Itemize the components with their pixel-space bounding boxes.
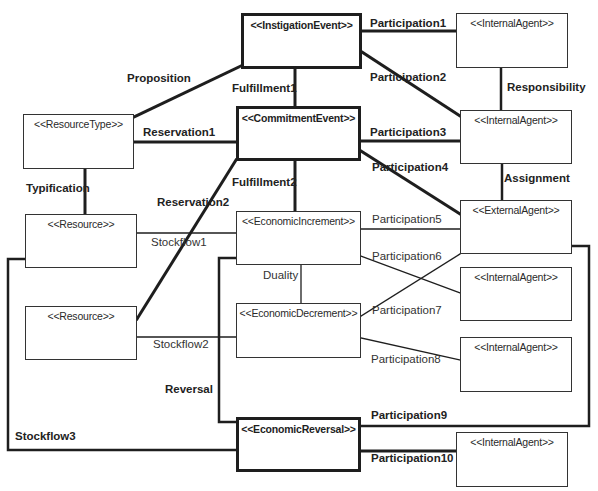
class-stereotype-label: <<InstigationEvent>> bbox=[244, 19, 359, 31]
class-box-economic-increment[interactable]: <<EconomicIncrement>> bbox=[236, 211, 361, 265]
reversal-line[interactable] bbox=[219, 258, 236, 422]
class-box-economic-decrement[interactable]: <<EconomicDecrement>> bbox=[236, 303, 361, 358]
class-stereotype-label: <<EconomicIncrement>> bbox=[237, 215, 360, 227]
typification-label: Typification bbox=[26, 182, 90, 194]
participation3-label: Participation3 bbox=[370, 126, 446, 138]
duality-label: Duality bbox=[263, 269, 298, 281]
participation2-label: Participation2 bbox=[370, 71, 446, 83]
class-stereotype-label: <<ExternalAgent>> bbox=[461, 204, 571, 216]
participation10-label: Participation10 bbox=[371, 452, 453, 464]
class-stereotype-label: <<CommitmentEvent>> bbox=[239, 112, 358, 124]
class-box-internal-agent-2[interactable]: <<InternalAgent>> bbox=[460, 110, 572, 164]
class-box-internal-agent-5[interactable]: <<InternalAgent>> bbox=[456, 432, 568, 487]
class-stereotype-label: <<Resource>> bbox=[26, 218, 136, 230]
participation6-label: Participation6 bbox=[372, 250, 442, 262]
assignment-label: Assignment bbox=[504, 172, 570, 184]
class-stereotype-label: <<InternalAgent>> bbox=[457, 436, 567, 448]
participation5-label: Participation5 bbox=[372, 213, 442, 225]
participation7-label: Participation7 bbox=[372, 304, 442, 316]
reservation2-label: Reservation2 bbox=[157, 196, 229, 208]
class-box-commitment-event[interactable]: <<CommitmentEvent>> bbox=[236, 106, 361, 161]
proposition-label: Proposition bbox=[127, 72, 191, 84]
class-stereotype-label: <<InternalAgent>> bbox=[461, 271, 571, 283]
stockflow2-label: Stockflow2 bbox=[153, 338, 209, 350]
participation4-label: Participation4 bbox=[372, 161, 448, 173]
class-box-external-agent[interactable]: <<ExternalAgent>> bbox=[460, 200, 572, 254]
fulfillment1-label: Fulfillment1 bbox=[232, 82, 297, 94]
class-box-economic-reversal[interactable]: <<EconomicReversal>> bbox=[236, 417, 361, 472]
participation1-label: Participation1 bbox=[370, 17, 446, 29]
reservation1-label: Reservation1 bbox=[143, 126, 215, 138]
participation9-label: Participation9 bbox=[371, 409, 447, 421]
responsibility-label: Responsibility bbox=[507, 81, 586, 93]
class-box-instigation-event[interactable]: <<InstigationEvent>> bbox=[241, 13, 362, 69]
stockflow3-label: Stockflow3 bbox=[15, 430, 76, 442]
class-stereotype-label: <<InternalAgent>> bbox=[457, 17, 567, 29]
class-box-resource-2[interactable]: <<Resource>> bbox=[25, 306, 137, 360]
class-stereotype-label: <<InternalAgent>> bbox=[461, 114, 571, 126]
fulfillment2-label: Fulfillment2 bbox=[232, 176, 297, 188]
class-stereotype-label: <<InternalAgent>> bbox=[461, 341, 571, 353]
class-stereotype-label: <<ResourceType>> bbox=[24, 118, 133, 130]
diagram-canvas: <<InstigationEvent>><<InternalAgent>><<R… bbox=[0, 0, 598, 491]
class-box-internal-agent-4[interactable]: <<InternalAgent>> bbox=[460, 337, 572, 392]
class-box-internal-agent-1[interactable]: <<InternalAgent>> bbox=[456, 13, 568, 68]
participation2-line[interactable] bbox=[362, 52, 460, 116]
stockflow1-label: Stockflow1 bbox=[151, 236, 207, 248]
participation8-label: Participation8 bbox=[371, 353, 441, 365]
class-box-internal-agent-3[interactable]: <<InternalAgent>> bbox=[460, 267, 572, 321]
class-box-resource-1[interactable]: <<Resource>> bbox=[25, 214, 137, 268]
class-box-resource-type[interactable]: <<ResourceType>> bbox=[23, 114, 134, 169]
class-stereotype-label: <<EconomicDecrement>> bbox=[237, 307, 360, 319]
class-stereotype-label: <<Resource>> bbox=[26, 310, 136, 322]
class-stereotype-label: <<EconomicReversal>> bbox=[239, 423, 358, 435]
reversal-label: Reversal bbox=[165, 383, 213, 395]
